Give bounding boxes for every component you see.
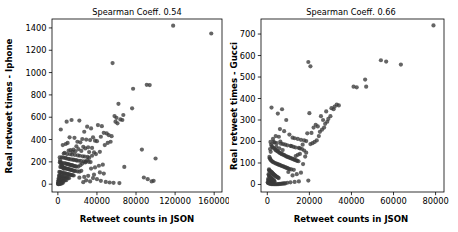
panel-left-svg: Spearman Coeff. 0.54 0400008000012000016… bbox=[0, 0, 229, 232]
gucci-ytick-label: 100 bbox=[240, 158, 256, 168]
gucci-point bbox=[316, 124, 320, 128]
gucci-point bbox=[309, 131, 313, 135]
panel-right-svg: Spearman Coeff. 0.66 0200004000060000800… bbox=[229, 0, 458, 232]
iphone-point bbox=[82, 175, 86, 179]
panel-left-title: Spearman Coeff. 0.54 bbox=[92, 7, 181, 17]
iphone-point bbox=[121, 113, 125, 117]
iphone-point bbox=[83, 146, 87, 150]
gucci-point bbox=[301, 162, 305, 166]
iphone-point bbox=[115, 121, 119, 125]
gucci-point bbox=[295, 172, 299, 176]
gucci-point bbox=[275, 141, 279, 145]
iphone-point bbox=[77, 176, 81, 180]
figure-container: Spearman Coeff. 0.54 0400008000012000016… bbox=[0, 0, 458, 232]
gucci-point bbox=[290, 173, 294, 177]
gucci-point bbox=[286, 170, 290, 174]
iphone-point bbox=[65, 120, 69, 124]
gucci-point bbox=[306, 179, 310, 183]
gucci-point bbox=[277, 176, 281, 180]
iphone-point bbox=[104, 180, 108, 184]
iphone-ytick-label: 1000 bbox=[25, 68, 46, 78]
iphone-point bbox=[79, 149, 83, 153]
iphone-point bbox=[146, 177, 150, 181]
iphone-point bbox=[90, 146, 94, 150]
gucci-point bbox=[271, 137, 275, 141]
gucci-point bbox=[294, 154, 298, 158]
iphone-point bbox=[82, 130, 86, 134]
iphone-point bbox=[85, 125, 89, 129]
iphone-ytick-label: 1400 bbox=[25, 23, 46, 33]
gucci-xtick-label: 40000 bbox=[338, 196, 364, 206]
iphone-point bbox=[93, 165, 97, 169]
iphone-point bbox=[148, 83, 152, 87]
iphone-xtick-label: 160000 bbox=[198, 196, 229, 206]
iphone-point bbox=[130, 106, 134, 110]
iphone-point bbox=[122, 165, 126, 169]
iphone-xtick-label: 80000 bbox=[123, 196, 149, 206]
iphone-point bbox=[108, 180, 112, 184]
iphone-point bbox=[111, 181, 115, 185]
gucci-point bbox=[284, 118, 288, 122]
gucci-point bbox=[303, 154, 307, 158]
gucci-point bbox=[319, 114, 323, 118]
gucci-point bbox=[285, 181, 289, 185]
iphone-point bbox=[99, 179, 103, 183]
gucci-point bbox=[296, 159, 300, 163]
gucci-point bbox=[297, 179, 301, 183]
iphone-point bbox=[88, 179, 92, 183]
iphone-point bbox=[102, 171, 106, 175]
gucci-point bbox=[277, 135, 281, 139]
gucci-point bbox=[268, 147, 272, 151]
iphone-point bbox=[87, 150, 91, 154]
gucci-ytick-label: 500 bbox=[240, 72, 256, 82]
panel-right-title: Spearman Coeff. 0.66 bbox=[306, 7, 395, 17]
gucci-point bbox=[280, 107, 284, 111]
iphone-point bbox=[88, 138, 92, 142]
iphone-point bbox=[86, 174, 90, 178]
gucci-ytick-label: 600 bbox=[240, 51, 256, 61]
gucci-point bbox=[337, 103, 341, 107]
iphone-point bbox=[81, 180, 85, 184]
gucci-point bbox=[282, 129, 286, 133]
iphone-point bbox=[62, 167, 66, 171]
gucci-point bbox=[308, 142, 312, 146]
gucci-point bbox=[315, 138, 319, 142]
iphone-point bbox=[98, 150, 102, 154]
iphone-point bbox=[153, 156, 157, 160]
iphone-xtick-label: 120000 bbox=[159, 196, 191, 206]
iphone-point bbox=[79, 169, 83, 173]
iphone-point bbox=[96, 123, 100, 127]
gucci-point bbox=[325, 120, 329, 124]
iphone-point bbox=[209, 31, 213, 35]
iphone-point bbox=[117, 181, 121, 185]
gucci-point bbox=[304, 139, 308, 143]
gucci-point bbox=[276, 111, 280, 115]
iphone-point bbox=[150, 179, 154, 183]
iphone-ytick-label: 600 bbox=[31, 112, 47, 122]
gucci-plot-frame bbox=[261, 19, 444, 192]
gucci-point bbox=[399, 62, 403, 66]
iphone-point bbox=[110, 134, 114, 138]
gucci-point bbox=[301, 143, 305, 147]
iphone-point bbox=[142, 175, 146, 179]
gucci-point bbox=[287, 133, 291, 137]
gucci-point bbox=[293, 180, 297, 184]
gucci-point bbox=[384, 59, 388, 63]
iphone-ytick-label: 200 bbox=[31, 157, 47, 167]
iphone-point bbox=[89, 126, 93, 130]
panel-right-ylabel: Real retweet times - Gucci bbox=[229, 42, 239, 170]
iphone-point bbox=[89, 166, 93, 170]
gucci-xtick-label: 20000 bbox=[296, 196, 322, 206]
gucci-point bbox=[379, 58, 383, 62]
iphone-point bbox=[72, 173, 76, 177]
iphone-point bbox=[61, 143, 65, 147]
iphone-point bbox=[98, 170, 102, 174]
scatter-panel-iphone: Spearman Coeff. 0.54 0400008000012000016… bbox=[0, 0, 229, 232]
iphone-point bbox=[92, 173, 96, 177]
gucci-point bbox=[321, 118, 325, 122]
gucci-ytick-label: 700 bbox=[240, 29, 256, 39]
gucci-ytick-label: 0 bbox=[250, 179, 255, 189]
gucci-point bbox=[304, 151, 308, 155]
iphone-point bbox=[77, 118, 81, 122]
iphone-xtick-label: 40000 bbox=[84, 196, 110, 206]
